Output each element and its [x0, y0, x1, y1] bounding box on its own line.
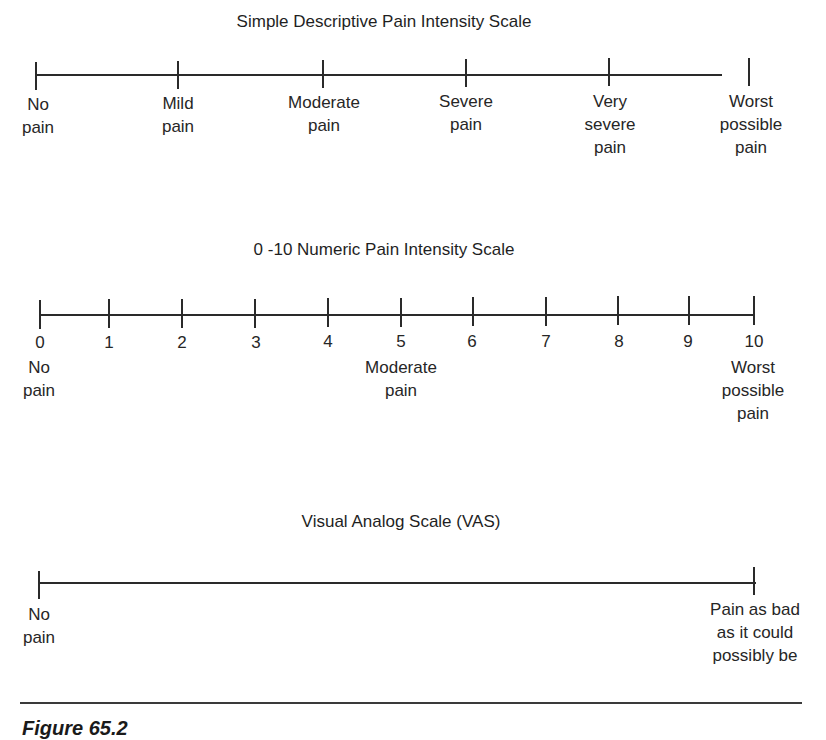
- numeric-tick-3: [254, 299, 256, 328]
- numeric-value-4: 4: [323, 330, 332, 353]
- descriptive-label-mild: Mild pain: [162, 92, 194, 138]
- descriptive-scale-title: Simple Descriptive Pain Intensity Scale: [237, 12, 532, 32]
- numeric-scale-title: 0 -10 Numeric Pain Intensity Scale: [254, 240, 515, 260]
- numeric-value-2: 2: [177, 331, 186, 354]
- numeric-axis-line: [39, 314, 755, 316]
- vas-label-worst: Pain as bad as it could possibly be: [710, 598, 800, 667]
- numeric-label-no-pain: No pain: [23, 356, 55, 402]
- numeric-value-3: 3: [251, 331, 260, 354]
- numeric-tick-10: [753, 296, 755, 325]
- numeric-tick-4: [327, 298, 329, 327]
- descriptive-label-severe: Severe pain: [439, 90, 493, 136]
- numeric-value-8: 8: [614, 330, 623, 353]
- descriptive-label-very-severe: Very severe pain: [584, 90, 635, 159]
- descriptive-tick-5: [748, 58, 750, 86]
- numeric-value-1: 1: [104, 331, 113, 354]
- numeric-value-7: 7: [541, 330, 550, 353]
- figure-caption: Figure 65.2: [22, 717, 128, 740]
- numeric-tick-7: [545, 297, 547, 326]
- numeric-tick-0: [39, 300, 41, 329]
- vas-axis-line: [38, 582, 756, 584]
- numeric-value-0: 0: [35, 331, 44, 354]
- numeric-tick-1: [108, 299, 110, 328]
- vas-tick-start: [38, 571, 40, 599]
- vas-scale-title: Visual Analog Scale (VAS): [302, 512, 501, 532]
- caption-divider: [20, 702, 802, 704]
- vas-tick-end: [753, 567, 755, 595]
- numeric-tick-2: [181, 299, 183, 328]
- numeric-tick-6: [472, 297, 474, 326]
- descriptive-tick-3: [465, 59, 467, 87]
- numeric-tick-9: [688, 296, 690, 325]
- descriptive-axis-line: [35, 74, 722, 76]
- descriptive-tick-4: [608, 58, 610, 86]
- numeric-value-10: 10: [745, 330, 764, 353]
- vas-label-no-pain: No pain: [23, 603, 55, 649]
- descriptive-tick-1: [177, 61, 179, 89]
- numeric-label-moderate: Moderate pain: [365, 356, 437, 402]
- descriptive-tick-2: [322, 60, 324, 88]
- numeric-value-5: 5: [396, 330, 405, 353]
- descriptive-tick-0: [35, 62, 37, 90]
- numeric-tick-8: [617, 296, 619, 325]
- descriptive-label-worst: Worst possible pain: [720, 90, 782, 159]
- descriptive-label-moderate: Moderate pain: [288, 91, 360, 137]
- numeric-label-worst: Worst possible pain: [722, 356, 784, 425]
- numeric-value-9: 9: [683, 330, 692, 353]
- numeric-value-6: 6: [467, 330, 476, 353]
- descriptive-label-no-pain: No pain: [22, 93, 54, 139]
- numeric-tick-5: [400, 298, 402, 327]
